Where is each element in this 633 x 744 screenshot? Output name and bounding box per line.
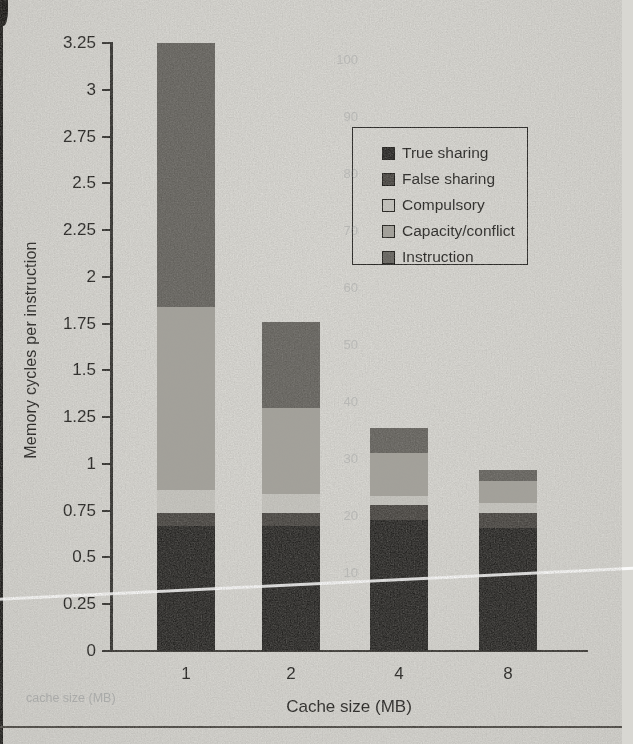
y-tick-label: 0.5	[26, 548, 96, 566]
y-tick-mark	[102, 182, 112, 184]
x-category-label: 1	[156, 664, 216, 684]
bar-segment	[262, 408, 320, 494]
y-tick-label: 0	[26, 642, 96, 660]
y-tick-label: 3.25	[26, 34, 96, 52]
x-category-label: 2	[261, 664, 321, 684]
legend-swatch-icon	[382, 199, 395, 212]
y-tick-label: 2.25	[26, 221, 96, 239]
y-tick-label: 1.25	[26, 408, 96, 426]
y-tick-label: 1	[26, 455, 96, 473]
y-tick-mark	[102, 323, 112, 325]
y-tick-label: 3	[26, 81, 96, 99]
y-tick-mark	[102, 229, 112, 231]
y-tick-mark	[102, 416, 112, 418]
y-tick-label: 2.75	[26, 128, 96, 146]
bar-segment	[157, 513, 215, 526]
y-axis-line	[110, 42, 113, 652]
bar-segment	[157, 43, 215, 307]
legend-label: Capacity/conflict	[402, 222, 515, 240]
bar-segment	[479, 513, 537, 528]
page-rule-line	[0, 726, 622, 728]
legend-label: Instruction	[402, 248, 474, 266]
y-tick-mark	[102, 650, 112, 652]
y-tick-mark	[102, 510, 112, 512]
y-tick-label: 1.75	[26, 315, 96, 333]
legend-swatch-icon	[382, 251, 395, 264]
x-category-label: 4	[369, 664, 429, 684]
legend-item: Compulsory	[382, 192, 527, 218]
y-tick-label: 0.75	[26, 502, 96, 520]
bar-segment	[157, 490, 215, 512]
y-tick-label: 1.5	[26, 361, 96, 379]
bar-segment	[262, 526, 320, 651]
y-tick-mark	[102, 276, 112, 278]
legend-item: Capacity/conflict	[382, 218, 527, 244]
y-tick-label: 0.25	[26, 595, 96, 613]
bar-segment	[157, 307, 215, 490]
y-tick-mark	[102, 603, 112, 605]
legend-swatch-icon	[382, 147, 395, 160]
x-category-label: 8	[478, 664, 538, 684]
bar-segment	[479, 503, 537, 512]
scan-gutter-strip	[0, 0, 3, 744]
y-tick-mark	[102, 136, 112, 138]
legend-box: True sharingFalse sharingCompulsoryCapac…	[352, 127, 528, 265]
y-tick-mark	[102, 556, 112, 558]
bar-segment	[370, 505, 428, 520]
y-tick-mark	[102, 42, 112, 44]
bar-segment	[479, 470, 537, 481]
legend-swatch-icon	[382, 173, 395, 186]
legend-label: Compulsory	[402, 196, 485, 214]
bar-segment	[370, 453, 428, 496]
legend-label: True sharing	[402, 144, 488, 162]
y-tick-mark	[102, 369, 112, 371]
y-tick-label: 2.5	[26, 174, 96, 192]
bar-segment	[262, 494, 320, 513]
bar-segment	[370, 496, 428, 505]
bar-segment	[479, 481, 537, 503]
legend-item: False sharing	[382, 166, 527, 192]
y-tick-label: 2	[26, 268, 96, 286]
legend-item: True sharing	[382, 140, 527, 166]
legend-swatch-icon	[382, 225, 395, 238]
bar-segment	[370, 520, 428, 651]
legend-item: Instruction	[382, 244, 527, 270]
bar-segment	[479, 528, 537, 651]
y-tick-mark	[102, 89, 112, 91]
bar-segment	[157, 526, 215, 651]
x-axis-title: Cache size (MB)	[286, 697, 412, 717]
bar-segment	[262, 513, 320, 526]
y-tick-mark	[102, 463, 112, 465]
bar-segment	[370, 428, 428, 452]
bar-segment	[262, 322, 320, 408]
legend-label: False sharing	[402, 170, 495, 188]
